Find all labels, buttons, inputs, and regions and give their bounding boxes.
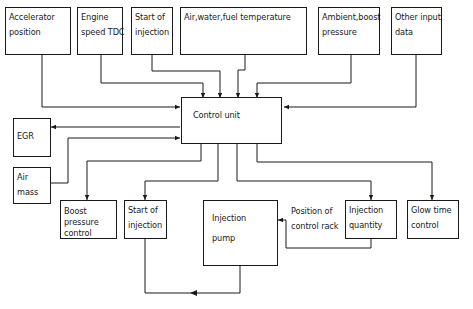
- label: Other input: [395, 10, 438, 25]
- control-unit: Control unit: [181, 97, 282, 144]
- label: Start of: [128, 203, 163, 218]
- label: Air,water,fuel temperature: [184, 10, 303, 25]
- label: Air: [17, 170, 47, 185]
- input-accelerator-position: Accelerator position: [5, 7, 71, 55]
- input-other-data: Other input data: [391, 7, 442, 55]
- label: Injection: [349, 203, 393, 218]
- air-mass-box: Air mass: [13, 167, 51, 204]
- label: EGR: [17, 129, 47, 144]
- output-start-of-injection: Start of injection: [124, 200, 167, 239]
- label: Boost: [64, 206, 113, 217]
- label: data: [395, 25, 438, 40]
- input-engine-speed: Engine speed TDC: [77, 7, 123, 55]
- output-boost-pressure-control: Boost pressure control: [60, 200, 117, 239]
- label: quantity: [349, 218, 393, 233]
- diagram-canvas: Accelerator position Engine speed TDC St…: [0, 0, 473, 309]
- egr-box: EGR: [13, 118, 51, 157]
- label: Injection: [212, 208, 277, 228]
- label: Accelerator: [9, 10, 67, 25]
- label: control rack: [291, 219, 338, 234]
- input-start-of-injection: Start of injection: [131, 7, 173, 55]
- label: injection: [128, 218, 163, 233]
- label: control: [411, 218, 455, 233]
- label: position: [9, 25, 67, 40]
- input-temperatures: Air,water,fuel temperature: [180, 7, 307, 55]
- injection-pump: Injection pump: [203, 200, 278, 266]
- label: control: [64, 228, 113, 239]
- label: Glow time: [411, 203, 455, 218]
- label: pump: [212, 228, 277, 248]
- output-injection-quantity: Injection quantity: [345, 200, 397, 239]
- label: Control unit: [193, 108, 281, 123]
- label: Ambient,boost: [322, 10, 376, 25]
- label: pressure: [64, 217, 113, 228]
- label: Start of: [135, 10, 169, 25]
- control-rack-annotation: Position of control rack: [291, 204, 338, 234]
- label: Engine: [81, 10, 119, 25]
- input-ambient-boost-pressure: Ambient,boost pressure: [318, 7, 380, 55]
- output-glow-time-control: Glow time control: [407, 200, 459, 239]
- label: Position of: [291, 204, 338, 219]
- label: mass: [17, 185, 47, 200]
- label: injection: [135, 25, 169, 40]
- label: pressure: [322, 25, 376, 40]
- label: speed TDC: [81, 25, 119, 40]
